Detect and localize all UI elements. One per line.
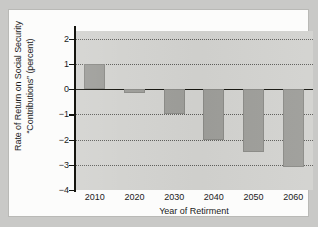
x-tick-label: 2060	[273, 192, 313, 202]
bar-2040	[203, 89, 224, 139]
plot-area	[75, 31, 313, 190]
y-tick-label: 2	[47, 34, 69, 44]
y-tick-mark	[69, 140, 75, 141]
y-tick-label: −3	[47, 160, 69, 170]
y-tick-mark	[69, 39, 75, 40]
x-tick-label: 2010	[75, 192, 115, 202]
y-tick-mark	[69, 165, 75, 166]
gridline--2	[75, 140, 313, 141]
y-axis-line	[74, 26, 76, 192]
x-tick-label: 2030	[154, 192, 194, 202]
y-axis-title: Rate of Return on Social Security “Contr…	[13, 11, 41, 161]
bar-2050	[243, 89, 264, 152]
bar-2020	[124, 89, 145, 93]
figure-card: Rate of Return on Social Security “Contr…	[8, 9, 309, 217]
y-tick-label: 0	[47, 84, 69, 94]
x-axis-title: Year of Retirment	[75, 206, 313, 216]
x-tick-label: 2020	[115, 192, 155, 202]
plot-shading	[75, 31, 313, 190]
gridline-2	[75, 39, 313, 40]
gridline--3	[75, 165, 313, 166]
y-tick-label: 1	[47, 59, 69, 69]
y-tick-mark	[69, 64, 75, 65]
y-tick-mark	[69, 114, 75, 115]
x-tick-label: 2040	[194, 192, 234, 202]
x-axis-tick-labels: 201020202030204020502060	[75, 192, 313, 206]
y-tick-label: −2	[47, 135, 69, 145]
x-tick-label: 2050	[234, 192, 274, 202]
bar-2060	[283, 89, 304, 167]
gridline-1	[75, 64, 313, 65]
gridline--1	[75, 114, 313, 115]
y-tick-mark	[69, 89, 75, 90]
y-tick-label: −4	[47, 185, 69, 195]
zero-line	[75, 89, 313, 90]
y-axis-tick-labels: 210−1−2−3−4	[47, 24, 69, 189]
bar-2010	[84, 64, 105, 89]
bar-2030	[164, 89, 185, 114]
y-tick-label: −1	[47, 109, 69, 119]
